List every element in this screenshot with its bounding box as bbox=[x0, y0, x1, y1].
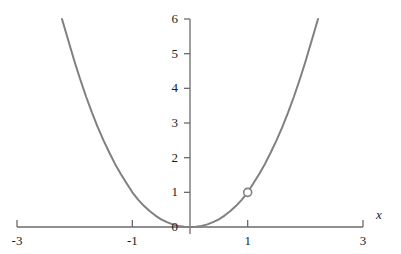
y-tick-label: 2 bbox=[150, 151, 178, 164]
y-axis-ticks bbox=[184, 19, 190, 192]
y-tick-label: 1 bbox=[150, 185, 178, 198]
x-tick-label: -3 bbox=[0, 234, 37, 247]
x-tick-label: 3 bbox=[343, 234, 383, 247]
chart-figure: 0123456 -3-113 x bbox=[0, 0, 401, 254]
y-tick-label: 4 bbox=[150, 81, 178, 94]
y-tick-label: 5 bbox=[150, 47, 178, 60]
x-axis-label: x bbox=[376, 208, 382, 221]
y-tick-label: 0 bbox=[150, 220, 178, 233]
y-axis bbox=[184, 19, 190, 234]
x-tick-label: 1 bbox=[228, 234, 268, 247]
open-circle-marker bbox=[244, 188, 252, 196]
plot-canvas bbox=[0, 0, 401, 254]
y-tick-label: 3 bbox=[150, 116, 178, 129]
data-point-markers bbox=[244, 188, 252, 196]
y-tick-label: 6 bbox=[150, 12, 178, 25]
x-tick-label: -1 bbox=[112, 234, 152, 247]
